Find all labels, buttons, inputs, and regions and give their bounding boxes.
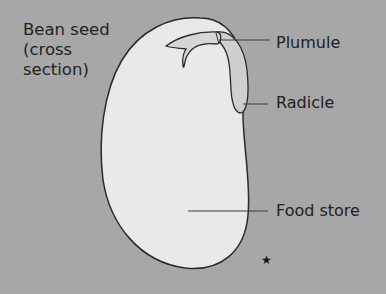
diagram-title: Bean seed (cross section) [23,20,110,80]
radicle-label: Radicle [276,93,334,112]
title-line-1: Bean seed [23,20,110,40]
star-icon: ★ [261,253,272,267]
title-line-3: section) [23,60,110,80]
title-line-2: (cross [23,40,110,60]
food-store-label: Food store [276,201,360,220]
plumule-label: Plumule [276,33,340,52]
